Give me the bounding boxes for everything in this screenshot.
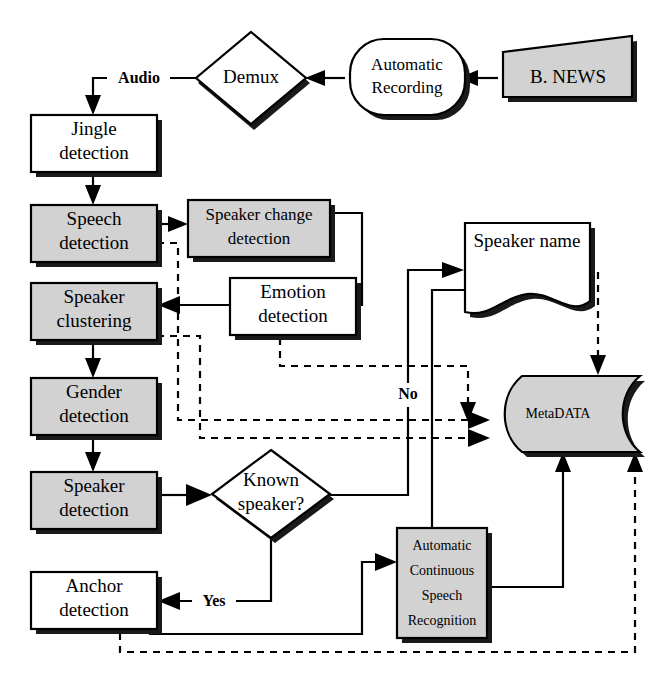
edge-speakercluster-to-gender (85, 341, 101, 378)
node-speaker-name[interactable]: Speaker name (465, 223, 595, 318)
node-demux[interactable]: Demux (196, 32, 310, 130)
edge-emotion-dashed-to-metadata (280, 338, 476, 422)
node-jingle-detection[interactable]: Jingle detection (31, 115, 162, 177)
node-b-news[interactable]: B. NEWS (503, 36, 637, 102)
edge-anchor-dashed-to-metadata (120, 452, 643, 652)
node-speaker-detection[interactable]: Speaker detection (31, 472, 162, 534)
edge-label-audio-text: Audio (118, 69, 160, 86)
edge-recording-to-demux (305, 70, 345, 86)
edge-speakercluster-dashed-to-metadata (157, 336, 490, 447)
edge-label-no: No (390, 383, 426, 407)
node-speaker-clustering[interactable]: Speaker clustering (31, 283, 162, 345)
edge-anchor-to-acsr (150, 553, 397, 634)
node-speaker-change-detection[interactable]: Speaker change detection (188, 200, 335, 262)
node-acsr[interactable]: Automatic Continuous Speech Recognition (397, 528, 492, 643)
edge-label-yes-text: Yes (202, 592, 225, 609)
node-emotion-detection[interactable]: Emotion detection (230, 278, 361, 340)
flowchart-diagram: B. NEWS Automatic Recording Demux Jingle… (0, 0, 664, 697)
edge-label-no-text: No (398, 385, 418, 402)
node-known-speaker[interactable]: Known speaker? (212, 450, 334, 543)
edge-acsr-to-metadata (487, 452, 571, 587)
edge-gender-to-speakerdet (85, 437, 101, 472)
edge-speakerdet-to-knownspeaker (157, 484, 212, 506)
node-speech-detection[interactable]: Speech detection (31, 205, 162, 267)
edge-label-yes: Yes (192, 590, 236, 614)
edge-emotion-to-speakercluster (158, 296, 230, 314)
node-metadata[interactable]: MetaDATA (505, 376, 645, 457)
edge-label-audio: Audio (107, 66, 170, 90)
node-gender-detection[interactable]: Gender detection (31, 378, 162, 440)
flowchart-canvas: B. NEWS Automatic Recording Demux Jingle… (0, 0, 664, 697)
node-automatic-recording[interactable]: Automatic Recording (350, 39, 470, 120)
node-anchor-detection[interactable]: Anchor detection (31, 572, 162, 634)
